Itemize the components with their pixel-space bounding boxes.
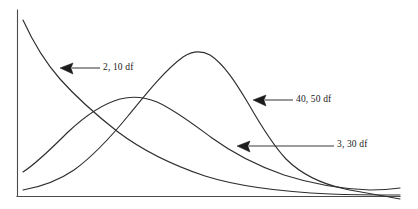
curve-label-40-50-df: 40, 50 df [296,95,331,105]
plot-canvas [0,0,418,209]
curve-2-10-df [23,20,400,195]
curve-40-50-df [23,52,400,199]
arrow-head-2-10-df [60,63,73,74]
arrow-head-40-50-df [253,95,266,106]
f-distribution-figure: 2, 10 df 40, 50 df 3, 30 df [0,0,418,209]
arrow-head-3-30-df [237,141,250,152]
curve-label-3-30-df: 3, 30 df [337,140,368,150]
curve-label-2-10-df: 2, 10 df [103,63,134,73]
